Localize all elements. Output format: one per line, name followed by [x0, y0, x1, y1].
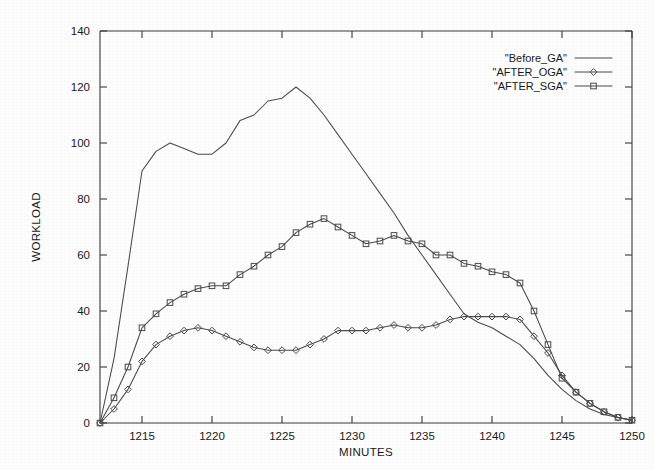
x-tick-label: 1245 — [549, 430, 575, 442]
x-tick-label: 1225 — [269, 430, 295, 442]
workload-line-chart: 0204060801001201401215122012251230123512… — [0, 0, 654, 469]
x-tick-label: 1220 — [199, 430, 225, 442]
y-tick-label: 100 — [71, 137, 90, 149]
y-axis-title: WORKLOAD — [30, 192, 42, 262]
series-path-1 — [100, 317, 632, 423]
series-path-2 — [100, 219, 632, 423]
y-tick-label: 80 — [77, 193, 90, 205]
legend: "Before_GA""AFTER_OGA""AFTER_SGA" — [493, 52, 612, 92]
y-tick-label: 20 — [77, 361, 90, 373]
series-path-0 — [100, 87, 632, 423]
series-0 — [100, 87, 632, 423]
legend-label-2: "AFTER_SGA" — [494, 80, 567, 92]
y-tick-label: 120 — [71, 81, 90, 93]
x-tick-label: 1215 — [129, 430, 155, 442]
x-tick-label: 1230 — [339, 430, 365, 442]
y-tick-label: 60 — [77, 249, 90, 261]
x-tick-label: 1235 — [409, 430, 435, 442]
x-axis-title: MINUTES — [339, 446, 393, 458]
x-tick-label: 1240 — [479, 430, 505, 442]
legend-label-0: "Before_GA" — [505, 52, 567, 64]
series-2 — [97, 216, 635, 426]
y-tick-label: 140 — [71, 25, 90, 37]
chart-page: 0204060801001201401215122012251230123512… — [0, 0, 654, 469]
y-tick-label: 0 — [84, 417, 90, 429]
series-1 — [97, 313, 636, 426]
legend-label-1: "AFTER_OGA" — [493, 66, 568, 78]
x-axis-ticks: 12151220122512301235124012451250 — [129, 31, 645, 442]
y-tick-label: 40 — [77, 305, 90, 317]
x-tick-label: 1250 — [619, 430, 645, 442]
